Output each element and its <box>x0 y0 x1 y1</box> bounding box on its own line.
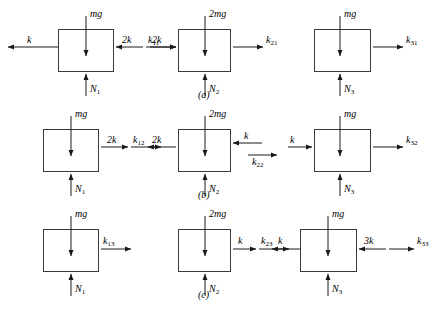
row-b-b1-weight-label: mg <box>75 109 87 119</box>
row-b-label: (b) <box>198 190 210 200</box>
row-c-b2-weight-label: 2mg <box>209 209 226 219</box>
row-b-b2-k-label: k <box>244 131 248 141</box>
row-b-b2-weight-label: 2mg <box>209 109 226 119</box>
row-a-b2-k21-label: k21 <box>266 35 277 45</box>
row-b-b3-normal-label: N3 <box>344 184 354 194</box>
row-a-b2-2k-label: 2k <box>152 35 161 45</box>
row-c-b3-left-force-label: k <box>278 236 282 246</box>
row-c-b2-normal-label: N2 <box>209 284 219 294</box>
row-c-b3-3k-label: 3k <box>364 236 373 246</box>
figure-canvas: mg N1 k 2k k11 2mg N2 2k k21 mg N3 k31 (… <box>0 0 442 314</box>
force-arrows-layer <box>0 0 442 314</box>
row-b-b3-k32-label: k32 <box>406 135 417 145</box>
row-a-b3-weight-label: mg <box>344 9 356 19</box>
row-a-b2-weight-label: 2mg <box>209 9 226 19</box>
row-a-b3-normal-label: N3 <box>344 84 354 94</box>
row-b-b2-k22-label: k22 <box>252 157 263 167</box>
row-a-b3-k31-label: k31 <box>406 35 417 45</box>
row-b-b1-2k-label: 2k <box>107 135 116 145</box>
row-c-b2-k23-label: k23 <box>261 236 272 246</box>
row-b-b2-2k-label: 2k <box>152 135 161 145</box>
row-b-b1-normal-label: N1 <box>75 184 85 194</box>
row-c-label: (c) <box>198 290 209 300</box>
row-c-b3-k33-label: k33 <box>417 236 428 246</box>
row-c-b3-weight-label: mg <box>332 209 344 219</box>
row-b-b3-weight-label: mg <box>344 109 356 119</box>
row-a-b1-left-force-label: k <box>27 35 31 45</box>
row-a-b1-2k-label: 2k <box>122 35 131 45</box>
row-c-b2-k-label: k <box>238 236 242 246</box>
row-b-b3-k-label: k <box>290 135 294 145</box>
row-c-b1-normal-label: N1 <box>75 284 85 294</box>
row-a-b1-weight-label: mg <box>90 9 102 19</box>
row-a-b1-normal-label: N1 <box>90 84 100 94</box>
row-c-b3-normal-label: N3 <box>332 284 342 294</box>
row-b-b2-normal-label: N2 <box>209 184 219 194</box>
row-b-b1-k12-label: k12 <box>133 135 144 145</box>
row-a-b2-normal-label: N2 <box>209 84 219 94</box>
row-a-label: (a) <box>198 90 210 100</box>
row-c-b1-weight-label: mg <box>75 209 87 219</box>
row-c-b1-k13-label: k13 <box>103 236 114 246</box>
